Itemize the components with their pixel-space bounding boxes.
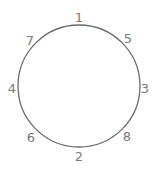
label-8-bottom-right: 8 [123,129,131,144]
number-labels: 15382647 [8,10,149,164]
label-3-right: 3 [141,81,149,96]
label-1-top: 1 [75,10,83,25]
circle [18,25,140,147]
label-6-bottom-left: 6 [27,130,35,145]
label-2-bottom: 2 [75,149,83,164]
label-4-left: 4 [8,81,16,96]
circle-diagram: 15382647 [0,0,157,172]
label-7-top-left: 7 [26,33,34,48]
label-5-top-right: 5 [124,31,132,46]
